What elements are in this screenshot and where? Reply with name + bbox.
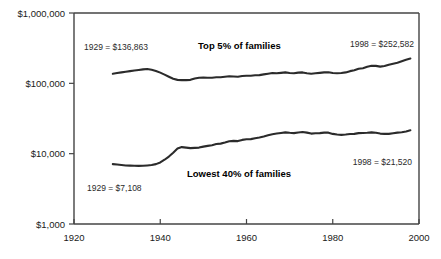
y-tick-label: $100,000 bbox=[25, 78, 65, 89]
series-label-lowest-40-percent: Lowest 40% of families bbox=[187, 168, 291, 179]
top-start-annotation: 1929 = $136,863 bbox=[84, 42, 148, 52]
bottom-start-annotation: 1929 = $7,108 bbox=[87, 183, 142, 193]
y-tick-label: $10,000 bbox=[31, 148, 65, 159]
x-tick-label: 1920 bbox=[63, 232, 84, 243]
top-end-annotation: 1998 = $252,582 bbox=[350, 39, 414, 49]
x-tick-label: 1960 bbox=[236, 232, 257, 243]
series-line-top-5-percent bbox=[113, 59, 411, 81]
chart-container: $1,000$10,000$100,000$1,000,000 19201940… bbox=[0, 0, 441, 259]
y-tick-label: $1,000,000 bbox=[17, 8, 65, 19]
income-distribution-line-chart: $1,000$10,000$100,000$1,000,000 19201940… bbox=[0, 0, 441, 259]
x-tick-label: 1940 bbox=[150, 232, 171, 243]
x-tick-group: 19201940196019802000 bbox=[63, 219, 429, 243]
x-tick-label: 1980 bbox=[322, 232, 343, 243]
series-label-top-5-percent: Top 5% of families bbox=[198, 40, 281, 51]
y-tick-label: $1,000 bbox=[36, 219, 65, 230]
y-tick-group: $1,000$10,000$100,000$1,000,000 bbox=[17, 8, 74, 230]
x-tick-label: 2000 bbox=[408, 232, 429, 243]
bottom-end-annotation: 1998 = $21,520 bbox=[353, 157, 413, 167]
